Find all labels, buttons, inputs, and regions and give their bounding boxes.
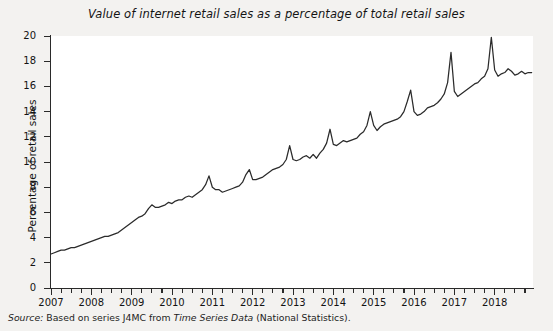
source-body-before: Based on series J4MC from (46, 312, 170, 323)
source-note: Source: Based on series J4MC from Time S… (8, 312, 351, 323)
series-layer (0, 0, 553, 331)
data-line-internet-retail-share (51, 37, 532, 254)
source-body-after: (National Statistics). (256, 312, 350, 323)
chart-figure: Value of internet retail sales as a perc… (0, 0, 553, 331)
source-publication-title: Time Series Data (174, 312, 254, 323)
source-prefix: Source: (8, 312, 43, 323)
